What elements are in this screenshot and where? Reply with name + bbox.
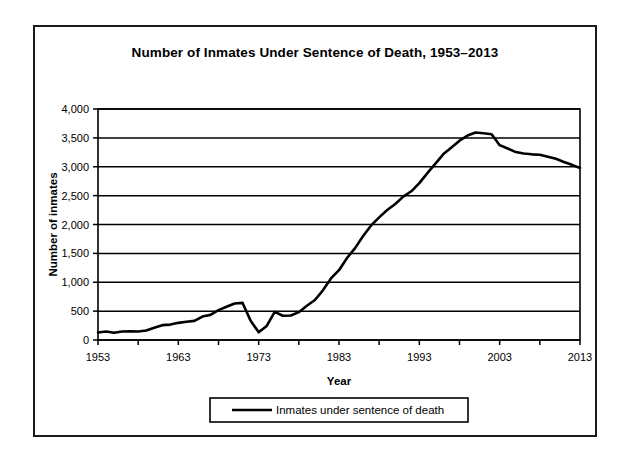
x-tick-labels-group: 1953196319731983199320032013 bbox=[86, 351, 592, 363]
y-tick-label: 3,500 bbox=[61, 132, 89, 144]
chart-figure: Number of Inmates Under Sentence of Deat… bbox=[33, 25, 597, 437]
y-tick-label: 1,500 bbox=[61, 247, 89, 259]
y-tick-labels-group: 05001,0001,5002,0002,5003,0003,5004,000 bbox=[61, 103, 98, 346]
x-axis-title: Year bbox=[327, 375, 352, 387]
y-tick-label: 0 bbox=[83, 334, 89, 346]
y-axis-title: Number of inmates bbox=[47, 172, 59, 276]
y-tick-label: 2,000 bbox=[61, 219, 89, 231]
x-tick-label: 1983 bbox=[327, 351, 351, 363]
legend-label: Inmates under sentence of death bbox=[276, 404, 444, 416]
x-tick-label: 1963 bbox=[166, 351, 190, 363]
x-tick-label: 1973 bbox=[246, 351, 270, 363]
y-tick-label: 4,000 bbox=[61, 103, 89, 115]
x-tick-label: 2013 bbox=[568, 351, 592, 363]
y-tick-label: 1,000 bbox=[61, 276, 89, 288]
x-tick-label: 1953 bbox=[86, 351, 110, 363]
y-tick-label: 500 bbox=[71, 305, 89, 317]
x-tick-label: 2003 bbox=[487, 351, 511, 363]
y-tick-label: 3,000 bbox=[61, 161, 89, 173]
chart-legend: Inmates under sentence of death bbox=[210, 398, 468, 422]
data-series-line bbox=[98, 133, 580, 333]
line-chart-plot: 05001,0001,5002,0002,5003,0003,5004,000 … bbox=[35, 27, 595, 435]
x-tick-label: 1993 bbox=[407, 351, 431, 363]
gridlines-group bbox=[98, 109, 580, 340]
y-tick-label: 2,500 bbox=[61, 190, 89, 202]
